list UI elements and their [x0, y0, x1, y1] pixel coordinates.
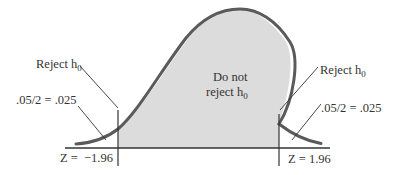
- normal-distribution-diagram: Reject h0 .05/2 = .025 Z = −1.96 Reject …: [0, 0, 400, 175]
- left-area-leader: [78, 106, 106, 140]
- left-reject-label: Reject h0: [36, 57, 82, 73]
- center-label-line1: Do not: [213, 70, 248, 84]
- left-reject-leader: [80, 66, 118, 108]
- acceptance-region: [118, 10, 291, 148]
- right-reject-label: Reject h0: [320, 63, 366, 79]
- left-area-label: .05/2 = .025: [16, 93, 77, 107]
- right-area-label: .05/2 = .025: [321, 101, 382, 115]
- left-z-label: Z = −1.96: [60, 151, 113, 165]
- right-area-leader: [292, 104, 321, 140]
- center-label-line2: reject h0: [206, 85, 248, 101]
- right-z-label: Z = 1.96: [288, 152, 331, 166]
